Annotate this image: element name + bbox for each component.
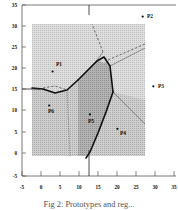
y-tick-label: 5 xyxy=(14,129,17,135)
x-tick-label: 30 xyxy=(152,184,158,190)
y-tick-label: 25 xyxy=(12,44,18,50)
scatter-plot-svg: 35 30 25 20 15 10 5 0 -5 -5 0 5 10 xyxy=(0,0,178,210)
data-point-p4[interactable] xyxy=(116,128,118,130)
x-tick-group xyxy=(22,171,174,176)
x-tick-label: 20 xyxy=(114,184,120,190)
data-point-p5[interactable] xyxy=(89,113,91,115)
data-point-p1[interactable] xyxy=(52,70,54,72)
y-tick-labels: 35 30 25 20 15 10 5 0 -5 xyxy=(12,2,18,179)
data-point-p6[interactable] xyxy=(48,104,50,106)
shaded-region-group xyxy=(32,24,145,156)
y-tick-label: 30 xyxy=(12,23,18,29)
x-tick-label: 5 xyxy=(59,184,62,190)
y-tick-label: 10 xyxy=(12,107,18,113)
x-tick-label: 15 xyxy=(95,184,101,190)
x-tick-label: 10 xyxy=(76,184,82,190)
data-point-label-p3: P3 xyxy=(158,83,164,89)
y-tick-label: 20 xyxy=(12,65,18,71)
x-tick-label: 0 xyxy=(40,184,43,190)
figure-root: 35 30 25 20 15 10 5 0 -5 -5 0 5 10 xyxy=(0,0,178,210)
y-tick-label: -5 xyxy=(13,173,18,179)
x-tick-label: -5 xyxy=(20,184,25,190)
x-tick-label: 25 xyxy=(133,184,139,190)
data-point-label-p1: P1 xyxy=(56,61,62,67)
data-point-label-p6: P6 xyxy=(48,108,54,114)
data-point-label-p5: P5 xyxy=(88,118,94,124)
y-tick-label: 35 xyxy=(12,2,18,8)
data-point-p2[interactable] xyxy=(142,16,144,18)
y-tick-label: 15 xyxy=(12,86,18,92)
data-point-label-p2: P2 xyxy=(147,13,153,19)
y-tick-group xyxy=(22,5,26,176)
y-tick-label: 0 xyxy=(14,150,17,156)
figure-caption: Fig 2: Prototypes and reg... xyxy=(0,199,178,210)
x-tick-labels: -5 0 5 10 15 20 25 30 35 xyxy=(20,184,177,190)
data-point-label-p4: P4 xyxy=(120,130,126,136)
data-point-p3[interactable] xyxy=(152,85,154,87)
x-tick-label: 35 xyxy=(171,184,177,190)
